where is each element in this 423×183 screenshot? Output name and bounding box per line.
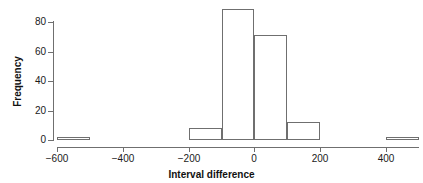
y-axis-tick-label: 0 <box>40 135 46 145</box>
x-axis-tick-label: −400 <box>103 154 143 164</box>
y-axis-title: Frequency <box>12 32 23 132</box>
y-axis-tick <box>48 111 53 112</box>
x-axis-tick-label: 0 <box>234 154 274 164</box>
histogram-bar <box>189 128 222 140</box>
y-axis-tick-label: 20 <box>35 106 46 116</box>
y-axis-tick-label: 80 <box>35 17 46 27</box>
y-axis-tick <box>48 52 53 53</box>
y-axis-tick-label: 40 <box>35 76 46 86</box>
x-axis-tick <box>386 147 387 152</box>
y-axis-line <box>53 21 54 141</box>
x-axis-title: Interval difference <box>0 169 423 180</box>
histogram-bar <box>254 35 287 140</box>
y-axis-tick <box>48 140 53 141</box>
x-axis-tick <box>189 147 190 152</box>
histogram-bar <box>57 137 90 140</box>
histogram-bar <box>222 9 255 140</box>
y-axis-tick-label: 60 <box>35 47 46 57</box>
x-axis-tick-label: 200 <box>300 154 340 164</box>
histogram-bar <box>386 137 419 140</box>
x-axis-tick-label: 400 <box>366 154 406 164</box>
x-axis-tick <box>57 147 58 152</box>
y-axis-tick <box>48 22 53 23</box>
x-axis-tick <box>123 147 124 152</box>
y-axis-tick <box>48 81 53 82</box>
x-axis-tick-label: −600 <box>37 154 77 164</box>
x-axis-tick <box>254 147 255 152</box>
histogram-bar <box>287 122 320 140</box>
x-axis-tick-label: −200 <box>169 154 209 164</box>
histogram-chart: 020406080 −600−400−2000200400 Frequency … <box>0 0 423 183</box>
x-axis-tick <box>320 147 321 152</box>
x-axis-line <box>57 147 419 148</box>
